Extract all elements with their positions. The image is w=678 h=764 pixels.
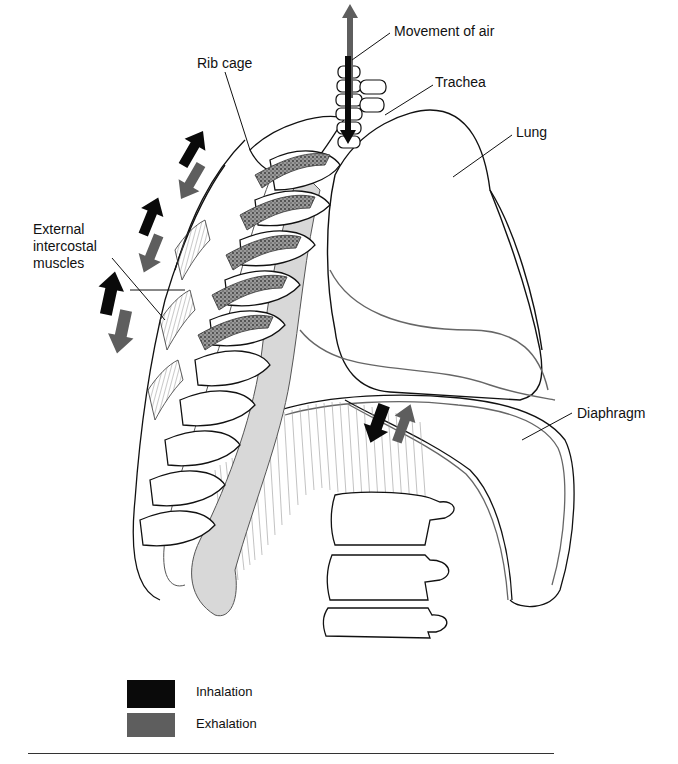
external-intercostal-muscles-label: External intercostal muscles xyxy=(33,221,97,272)
rib-cage-label: Rib cage xyxy=(197,55,252,72)
respiration-diagram xyxy=(0,0,678,764)
inhalation-legend-label: Inhalation xyxy=(196,684,252,699)
exhalation-legend-label: Exhalation xyxy=(196,716,257,731)
trachea-label: Trachea xyxy=(435,74,486,91)
vertebral-column xyxy=(324,492,455,638)
inhalation-swatch xyxy=(127,680,175,708)
lung-label: Lung xyxy=(516,124,547,141)
lung xyxy=(300,110,555,400)
movement-of-air-label: Movement of air xyxy=(394,23,494,40)
exhalation-swatch xyxy=(127,713,175,737)
bottom-rule xyxy=(28,753,554,754)
diaphragm-label: Diaphragm xyxy=(577,405,645,422)
